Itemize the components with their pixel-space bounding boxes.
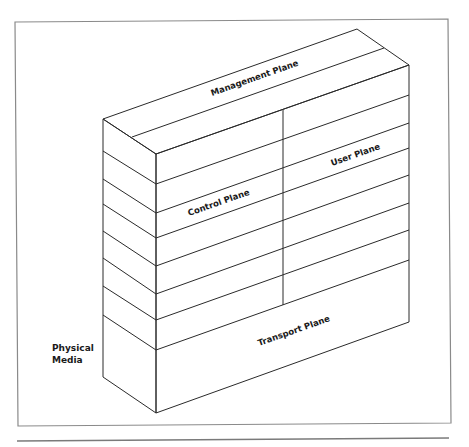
physical-media-label: Physical Media (52, 342, 94, 366)
diagram-canvas: Management Plane Control Plane User Plan… (0, 0, 469, 447)
physical-media-label-line1: Physical (52, 342, 94, 354)
management-plane-divider-line (132, 48, 384, 137)
control-plane-label: Control Plane (186, 187, 251, 218)
management-plane-label: Management Plane (209, 58, 300, 98)
plane-model-diagram: Management Plane Control Plane User Plan… (0, 0, 469, 447)
user-plane-label: User Plane (329, 141, 381, 168)
side-face-outline (103, 119, 156, 413)
side-layer-lines (103, 151, 156, 350)
management-plane-top-face (103, 29, 409, 154)
physical-media-label-line2: Media (52, 354, 94, 366)
figure-bottom-rule (17, 438, 449, 441)
transport-plane-label: Transport Plane (256, 313, 331, 348)
